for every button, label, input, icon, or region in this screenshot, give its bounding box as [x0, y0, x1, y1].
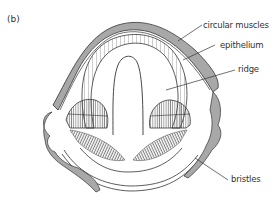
- label-ridge: ridge: [238, 64, 259, 74]
- label-epithelium: epithelium: [220, 40, 263, 50]
- leader-bristles: [195, 158, 228, 180]
- cross-section-diagram: [0, 0, 272, 203]
- leader-circular-muscles: [178, 25, 202, 41]
- label-bristles: bristles: [231, 174, 260, 184]
- label-circular-muscles: circular muscles: [203, 20, 269, 30]
- ridge-shape: [113, 56, 143, 135]
